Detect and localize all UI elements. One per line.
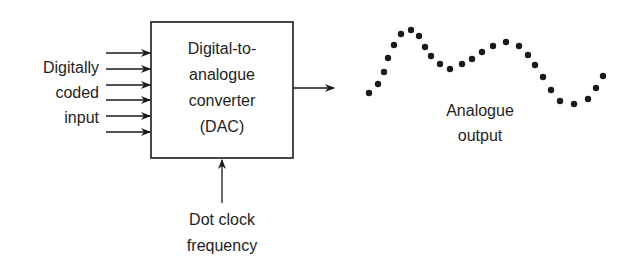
input-label: Digitally coded input: [10, 59, 99, 127]
output-dot: [459, 61, 465, 67]
input-label-line-2: coded: [10, 84, 99, 102]
output-dot: [437, 61, 443, 67]
analogue-output-dots: [366, 27, 606, 107]
output-dot: [600, 73, 606, 79]
output-dot: [428, 53, 434, 59]
output-dot: [447, 66, 453, 72]
output-dot: [416, 33, 422, 39]
output-dot: [503, 39, 509, 45]
output-dot: [571, 101, 577, 107]
output-dot: [557, 98, 563, 104]
output-dot: [516, 43, 522, 49]
output-dot: [532, 62, 538, 68]
dac-label-line-1: Digital-to-: [151, 40, 293, 58]
output-label: Analogue output: [425, 102, 535, 145]
dac-block-label: Digital-to- analogue converter (DAC): [151, 40, 293, 136]
input-arrows: [106, 53, 150, 132]
output-dot: [381, 69, 387, 75]
clock-label: Dot clock frequency: [162, 211, 282, 255]
dac-label-line-4: (DAC): [151, 118, 293, 136]
output-dot: [366, 90, 372, 96]
output-dot: [585, 96, 591, 102]
output-dot: [385, 55, 391, 61]
output-dot: [391, 42, 397, 48]
output-dot: [548, 87, 554, 93]
output-dot: [593, 85, 599, 91]
output-label-line-1: Analogue: [425, 102, 535, 120]
output-dot: [469, 56, 475, 62]
output-dot: [422, 44, 428, 50]
output-dot: [525, 52, 531, 58]
output-dot: [479, 49, 485, 55]
input-label-line-1: Digitally: [10, 59, 99, 77]
diagram-canvas: [0, 0, 636, 280]
dac-label-line-3: converter: [151, 92, 293, 110]
input-label-line-3: input: [10, 109, 99, 127]
output-dot: [398, 31, 404, 37]
output-dot: [540, 74, 546, 80]
clock-label-line-1: Dot clock: [162, 211, 282, 229]
output-label-line-2: output: [425, 127, 535, 145]
dac-label-line-2: analogue: [151, 66, 293, 84]
clock-label-line-2: frequency: [162, 237, 282, 255]
output-dot: [375, 81, 381, 87]
output-dot: [490, 43, 496, 49]
output-dot: [408, 27, 414, 33]
